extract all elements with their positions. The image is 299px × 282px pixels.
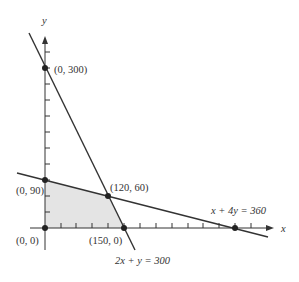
point-150-0 [121, 225, 127, 231]
y-axis-arrow-icon [42, 36, 48, 44]
lp-graph: x y [0, 0, 299, 282]
label-150-0: (150, 0) [89, 235, 123, 247]
point-120-60 [105, 193, 111, 199]
y-axis-label: y [41, 15, 47, 26]
label-line1: 2x + y = 300 [115, 255, 171, 266]
point-0-90 [42, 177, 48, 183]
x-axis-label: x [280, 223, 286, 234]
label-0-300: (0, 300) [54, 64, 88, 76]
label-120-60: (120, 60) [110, 182, 149, 194]
point-0-0 [42, 225, 48, 231]
point-0-300 [42, 65, 48, 71]
x-axis-arrow-icon [266, 225, 274, 231]
label-0-0: (0, 0) [16, 235, 39, 247]
label-0-90: (0, 90) [16, 185, 44, 197]
label-line2: x + 4y = 360 [210, 205, 267, 216]
point-360-0 [232, 225, 238, 231]
